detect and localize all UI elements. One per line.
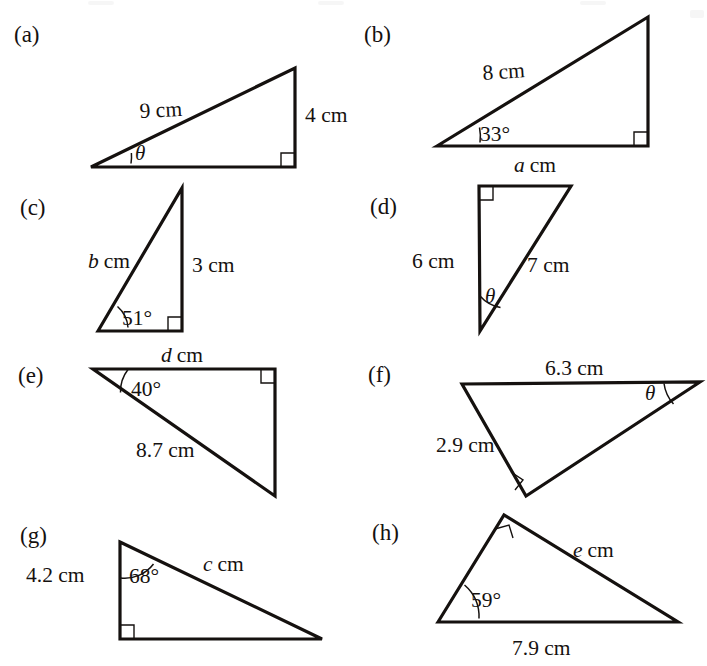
figure-a-angle-arc <box>131 153 132 164</box>
figure-c-vertical-side-label: 3 cm <box>192 253 235 277</box>
figure-e-hypotenuse-label: 8.7 cm <box>136 438 195 462</box>
figure-g-hypotenuse-variable: c <box>203 552 213 576</box>
figure-b-base-unit: cm <box>530 153 557 177</box>
figure-h-angle-label: 59° <box>471 588 501 612</box>
figure-b-base-label: acm <box>514 153 556 177</box>
figure-c-hypotenuse-unit: cm <box>104 249 131 273</box>
figure-h-hypotenuse-variable: e <box>573 538 583 562</box>
figure-e-top-side-label: dcm <box>161 343 203 367</box>
figure-f-angle-label: θ <box>645 381 655 405</box>
figure-b-hypotenuse-label: 8 cm <box>482 58 526 85</box>
figure-a-angle-label: θ <box>135 141 145 165</box>
figure-d-part-label: (d) <box>370 194 397 219</box>
figure-g-hypotenuse-label: ccm <box>203 552 244 576</box>
figure-b-angle-label: 33° <box>480 122 510 146</box>
figure-a-vertical-side-label: 4 cm <box>305 103 348 127</box>
figure-h-base-label: 7.9 cm <box>512 636 571 660</box>
figure-h-hypotenuse-unit: cm <box>588 538 615 562</box>
figure-c-hypotenuse-label: bcm <box>88 249 130 273</box>
figure-g-vertical-side-label: 4.2 cm <box>26 563 85 587</box>
page-background <box>0 0 707 666</box>
figure-h-hypotenuse-label: ecm <box>573 538 614 562</box>
figure-f-left-side-label: 2.9 cm <box>436 433 495 457</box>
figure-e-top-side-unit: cm <box>177 343 204 367</box>
figure-g-hypotenuse-unit: cm <box>218 552 245 576</box>
figure-e-angle-label: 40° <box>131 377 161 401</box>
figure-f-top-side-label: 6.3 cm <box>545 356 604 380</box>
figure-b-part-label: (b) <box>364 22 391 47</box>
figure-h-part-label: (h) <box>372 520 399 545</box>
figure-d-vertical-side-label: 6 cm <box>412 249 455 273</box>
figure-e-top-side-variable: d <box>161 343 172 367</box>
figure-c-angle-label: 51° <box>122 306 152 330</box>
figure-a-hypotenuse-label: 9 cm <box>139 97 183 123</box>
figure-d-angle-label: θ <box>485 284 495 308</box>
figure-d-hypotenuse-label: 7 cm <box>527 253 570 277</box>
figure-sheet: (a) 9 cm 4 cm θ (b) 8 cm 33° acm (c) bcm… <box>0 0 707 666</box>
figure-b-base-variable: a <box>514 153 525 177</box>
figure-c-hypotenuse-variable: b <box>88 249 99 273</box>
figure-e-part-label: (e) <box>18 363 44 388</box>
figure-g-part-label: (g) <box>20 523 47 548</box>
figure-c-part-label: (c) <box>20 195 46 220</box>
figure-f-part-label: (f) <box>368 362 391 387</box>
triangle-exercise-diagram: (a) 9 cm 4 cm θ (b) 8 cm 33° acm (c) bcm… <box>0 0 707 666</box>
figure-g-angle-label: 68° <box>129 564 159 588</box>
figure-a-part-label: (a) <box>14 22 40 47</box>
